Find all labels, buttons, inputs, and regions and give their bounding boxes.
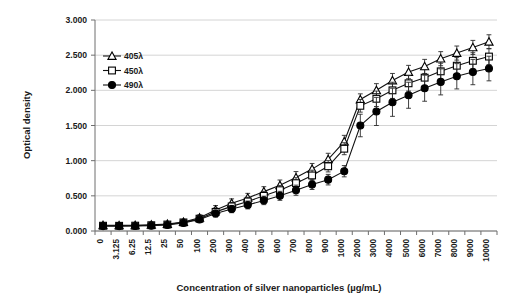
x-tick-label: 5000 xyxy=(402,239,411,258)
marker-filled-circle xyxy=(341,168,348,175)
marker-filled-circle xyxy=(100,223,107,230)
x-tick-label: 2000 xyxy=(353,239,362,258)
x-tick-label: 800 xyxy=(305,239,314,253)
marker-filled-circle xyxy=(405,92,412,99)
y-tick-label: 0.000 xyxy=(65,226,87,236)
y-tick-label: 1.500 xyxy=(65,121,87,131)
x-tick-label: 3.125 xyxy=(112,239,121,260)
x-tick-label: 3000 xyxy=(369,239,378,258)
chart-legend: 405λ450λ490λ xyxy=(103,51,143,90)
marker-filled-circle xyxy=(164,221,171,228)
y-tick-label: 3.000 xyxy=(65,15,87,25)
marker-filled-circle xyxy=(276,192,283,199)
marker-filled-circle xyxy=(260,197,267,204)
marker-filled-circle xyxy=(389,99,396,106)
x-axis-title: Concentration of silver nanoparticles (µ… xyxy=(176,282,381,293)
optical-density-line-chart: 0.0000.5001.0001.5002.0002.5003.000 03.1… xyxy=(0,0,516,302)
y-tick-label: 1.000 xyxy=(65,156,87,166)
x-tick-label: 7000 xyxy=(434,239,443,258)
marker-filled-circle xyxy=(132,223,139,230)
x-tick-label: 1000 xyxy=(337,239,346,258)
marker-filled-circle xyxy=(212,210,219,217)
marker-open-square xyxy=(109,67,116,74)
x-tick-label: 8000 xyxy=(450,239,459,258)
legend-label: 490λ xyxy=(124,80,143,90)
x-tick-label: 100 xyxy=(193,239,202,253)
x-tick-label: 9000 xyxy=(466,239,475,258)
marker-filled-circle xyxy=(180,219,187,226)
marker-filled-circle xyxy=(228,206,235,213)
y-axis-title: Optical density xyxy=(21,90,32,159)
x-tick-label: 300 xyxy=(225,239,234,253)
x-tick-label: 900 xyxy=(321,239,330,253)
x-tick-label: 6000 xyxy=(418,239,427,258)
legend-label: 450λ xyxy=(124,66,143,76)
marker-filled-circle xyxy=(196,216,203,223)
x-tick-label: 500 xyxy=(257,239,266,253)
legend-item-450λ: 450λ xyxy=(103,66,143,76)
x-tick-label: 12.5 xyxy=(144,239,153,255)
marker-filled-circle xyxy=(325,176,332,183)
x-tick-label: 50 xyxy=(176,239,185,249)
marker-filled-circle xyxy=(373,108,380,115)
y-tick-label: 2.000 xyxy=(65,85,87,95)
marker-filled-circle xyxy=(293,187,300,194)
x-tick-label: 25 xyxy=(160,239,169,249)
marker-filled-circle xyxy=(148,222,155,229)
x-tick-label: 600 xyxy=(273,239,282,253)
marker-filled-circle xyxy=(116,223,123,230)
marker-open-square xyxy=(357,102,364,109)
marker-filled-circle xyxy=(437,78,444,85)
marker-open-square xyxy=(325,163,332,170)
x-tick-label: 700 xyxy=(289,239,298,253)
x-tick-label: 10000 xyxy=(482,239,491,262)
y-tick-label: 0.500 xyxy=(65,191,87,201)
marker-filled-circle xyxy=(469,69,476,76)
marker-filled-circle xyxy=(485,65,492,72)
marker-open-square xyxy=(341,145,348,152)
x-tick-label: 4000 xyxy=(385,239,394,258)
marker-filled-circle xyxy=(453,73,460,80)
x-tick-label: 0 xyxy=(96,239,105,244)
x-tick-label: 400 xyxy=(241,239,250,253)
y-tick-label: 2.500 xyxy=(65,50,87,60)
marker-open-square xyxy=(309,172,316,179)
marker-filled-circle xyxy=(309,181,316,188)
legend-label: 405λ xyxy=(124,51,143,61)
marker-filled-circle xyxy=(421,85,428,92)
marker-filled-circle xyxy=(109,82,116,89)
marker-filled-circle xyxy=(244,201,251,208)
marker-filled-circle xyxy=(357,122,364,129)
x-tick-label: 200 xyxy=(209,239,218,253)
x-tick-label: 6.25 xyxy=(128,239,137,255)
chart-figure: 0.0000.5001.0001.5002.0002.5003.000 03.1… xyxy=(0,0,516,302)
